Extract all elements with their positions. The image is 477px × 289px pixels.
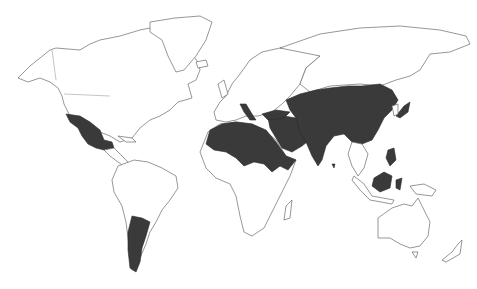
philippines [386,148,396,166]
new-guinea [410,184,436,196]
south-america [112,160,178,270]
korea [392,104,398,116]
australia [378,198,430,248]
argentina [128,216,150,272]
world-map [0,0,477,289]
southeast-asia [348,142,368,176]
sri-lanka [332,164,335,168]
uk [218,80,228,98]
borneo [372,172,392,192]
new-zealand [442,240,462,262]
madagascar [284,200,292,220]
tasmania [412,252,418,258]
sulawesi [396,178,402,190]
asia-mainland [286,84,398,166]
